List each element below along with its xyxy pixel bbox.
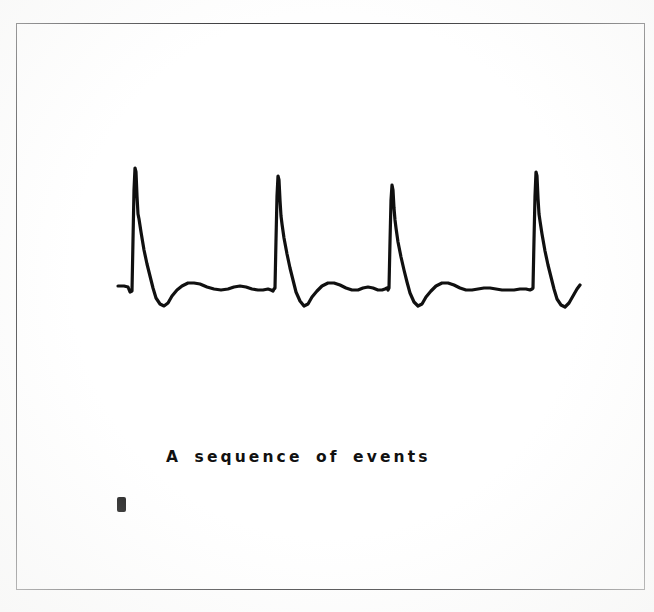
figure-caption: A sequence of events (166, 448, 431, 466)
ecg-trace-line (118, 168, 580, 307)
ecg-waveform-plot (0, 0, 654, 612)
figure-page: A sequence of events (0, 0, 654, 612)
block-mark-icon (117, 497, 126, 512)
